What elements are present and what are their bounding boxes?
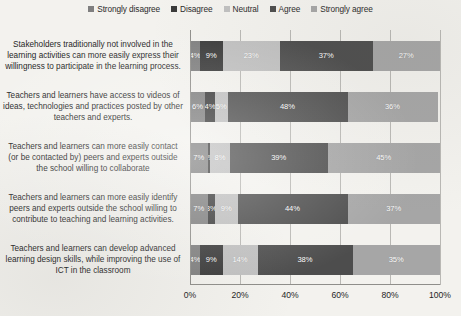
bar-segment-value-label: 6%: [192, 102, 203, 111]
x-tick-label: 20%: [231, 290, 248, 300]
legend-swatch-icon: [311, 6, 317, 12]
category-label: Teachers and learners have access to vid…: [0, 81, 186, 132]
bar-segment[interactable]: 4%: [190, 41, 200, 71]
category-label: Teachers and learners can more easily co…: [0, 132, 186, 183]
bar-row: 7%3%9%44%37%: [190, 194, 440, 224]
legend-item[interactable]: Disagree: [171, 4, 212, 14]
legend-item-label: Strongly disagree: [97, 4, 160, 14]
bar-segment-value-label: 44%: [285, 204, 300, 213]
bar-segment-value-label: 36%: [385, 102, 400, 111]
bar-segment-value-label: 9%: [221, 204, 232, 213]
legend-swatch-icon: [171, 6, 177, 12]
bar-segment-value-label: 14%: [232, 255, 247, 264]
x-tick-label: 60%: [331, 290, 348, 300]
bar-segment[interactable]: 45%: [328, 143, 441, 173]
legend-item-label: Disagree: [180, 4, 212, 14]
category-label-line: ideas, technologies and practices posted…: [0, 101, 186, 112]
bar-segment[interactable]: 44%: [238, 194, 348, 224]
bar-segment[interactable]: 7%: [190, 143, 208, 173]
category-label: Stakeholders traditionally not involved …: [0, 30, 186, 81]
category-label-line: learning activities can more easily expr…: [0, 50, 186, 61]
bar-segment[interactable]: 35%: [353, 245, 441, 275]
category-label-line: Teachers and learners can more easily id…: [0, 192, 186, 203]
bar-segment[interactable]: 27%: [373, 41, 441, 71]
bar-segment[interactable]: 7%: [190, 194, 208, 224]
category-label-line: Teachers and learners can develop advanc…: [0, 243, 186, 254]
bar-segment[interactable]: 8%: [210, 143, 230, 173]
bar-segment-value-label: 5%: [216, 102, 227, 111]
bar-segment[interactable]: 37%: [280, 41, 373, 71]
x-tick-label: 40%: [281, 290, 298, 300]
category-label-line: willingness to participate in the learni…: [0, 61, 186, 72]
bar-segment-value-label: 35%: [389, 255, 404, 264]
x-tick-label: 100%: [429, 290, 451, 300]
y-axis-line: [190, 30, 191, 285]
legend-item-label: Agree: [279, 4, 301, 14]
category-label-line: Teachers and learners can more easily co…: [0, 141, 186, 152]
legend-swatch-icon: [88, 6, 94, 12]
legend-swatch-icon: [270, 6, 276, 12]
x-tick-label: 0%: [184, 290, 196, 300]
bar-segment-value-label: 37%: [319, 51, 334, 60]
category-label-line: learning design skills, while improving …: [0, 254, 186, 265]
bar-segment-value-label: 8%: [215, 153, 226, 162]
bar-segment[interactable]: 14%: [223, 245, 258, 275]
category-label-line: the school willing to collaborate: [0, 163, 186, 174]
category-label: Teachers and learners can develop advanc…: [0, 234, 186, 285]
bar-segment-value-label: 4%: [190, 255, 200, 264]
bar-segment[interactable]: 9%: [200, 245, 223, 275]
bar-rows: 4%9%23%37%27%6%4%5%48%36%7%1%8%39%45%7%3…: [190, 30, 440, 285]
bar-segment-value-label: 9%: [206, 255, 217, 264]
bar-segment[interactable]: 9%: [200, 41, 223, 71]
category-label-line: (or be contacted by) peers and experts o…: [0, 152, 186, 163]
bar-segment[interactable]: 5%: [215, 92, 228, 122]
x-tick-label: 80%: [381, 290, 398, 300]
bar-row: 4%9%14%38%35%: [190, 245, 440, 275]
stacked-bar-chart: Strongly disagreeDisagreeNeutralAgreeStr…: [0, 0, 461, 316]
legend-item-label: Neutral: [233, 4, 259, 14]
bar-segment-value-label: 38%: [297, 255, 312, 264]
category-label-line: ICT in the classroom: [0, 265, 186, 276]
bar-segment[interactable]: 48%: [228, 92, 348, 122]
bar-segment-value-label: 37%: [386, 204, 401, 213]
category-label: Teachers and learners can more easily id…: [0, 183, 186, 234]
legend-item[interactable]: Strongly agree: [311, 4, 373, 14]
bar-segment-value-label: 9%: [206, 51, 217, 60]
category-label-line: Stakeholders traditionally not involved …: [0, 39, 186, 50]
bar-segment[interactable]: 3%: [208, 194, 216, 224]
bar-segment[interactable]: 4%: [190, 245, 200, 275]
bar-segment[interactable]: 9%: [215, 194, 238, 224]
bar-segment[interactable]: 39%: [230, 143, 328, 173]
category-label-line: teachers and experts.: [0, 112, 186, 123]
legend-item[interactable]: Strongly disagree: [88, 4, 160, 14]
bar-segment[interactable]: 36%: [348, 92, 438, 122]
gridline: [440, 30, 441, 285]
bar-row: 4%9%23%37%27%: [190, 41, 440, 71]
bar-segment[interactable]: 4%: [205, 92, 215, 122]
bar-segment-value-label: 48%: [280, 102, 295, 111]
x-axis-line: [190, 284, 440, 285]
category-label-line: Teachers and learners have access to vid…: [0, 90, 186, 101]
category-label-line: contribute to teaching and learning acti…: [0, 214, 186, 225]
bar-segment[interactable]: 38%: [258, 245, 353, 275]
bar-segment-value-label: 23%: [244, 51, 259, 60]
bar-segment[interactable]: 37%: [348, 194, 441, 224]
x-axis-tick-labels: 0%20%40%60%80%100%: [190, 290, 440, 306]
bar-segment-value-label: 7%: [193, 204, 204, 213]
bar-segment-value-label: 4%: [190, 51, 200, 60]
legend-swatch-icon: [224, 6, 230, 12]
category-axis-labels: Stakeholders traditionally not involved …: [0, 30, 186, 285]
legend-item[interactable]: Neutral: [224, 4, 259, 14]
bar-segment-value-label: 4%: [205, 102, 215, 111]
bar-segment-value-label: 3%: [208, 204, 216, 213]
bar-segment[interactable]: 23%: [223, 41, 281, 71]
chart-legend: Strongly disagreeDisagreeNeutralAgreeStr…: [0, 4, 461, 14]
bar-segment[interactable]: 6%: [190, 92, 205, 122]
bar-segment-value-label: 7%: [193, 153, 204, 162]
legend-item-label: Strongly agree: [320, 4, 373, 14]
legend-item[interactable]: Agree: [270, 4, 301, 14]
bar-segment-value-label: 45%: [376, 153, 391, 162]
bar-row: 7%1%8%39%45%: [190, 143, 440, 173]
plot-area: 4%9%23%37%27%6%4%5%48%36%7%1%8%39%45%7%3…: [190, 30, 440, 285]
bar-segment-value-label: 27%: [399, 51, 414, 60]
